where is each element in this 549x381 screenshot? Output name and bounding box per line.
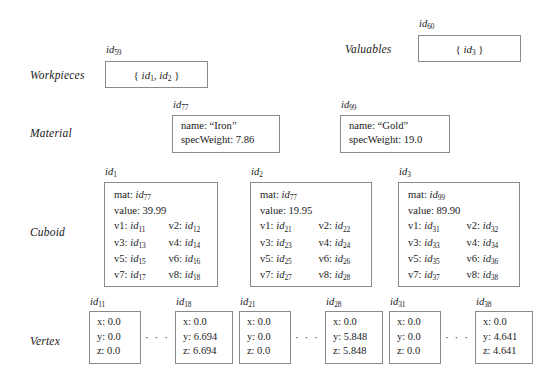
object-id-label-cuboid-2: id2: [251, 166, 263, 177]
cuboid-vertex-ref: v1: id31: [408, 218, 453, 234]
id-prefix: id: [335, 220, 343, 231]
object-box-workpieces-set[interactable]: { id1, id2 }: [105, 61, 208, 88]
attr-value-z: 0.0: [407, 345, 420, 356]
attr-value-z: 5.848: [343, 345, 366, 356]
object-box-vertex-28[interactable]: x: 0.0 y: 5.848 z: 5.848: [325, 311, 383, 364]
vertex-x-line: x: 0.0: [247, 315, 285, 330]
attr-key-v: v5:: [114, 253, 128, 264]
vertex-x-line: x: 0.0: [183, 315, 227, 330]
id-subscript: 1: [150, 74, 154, 83]
attr-value-specweight: 7.86: [236, 134, 255, 145]
vertex-z-line: z: 6.694: [183, 344, 227, 359]
object-id-label-workpieces-set: id59: [106, 44, 121, 55]
attr-value-v-ref: id26: [335, 253, 350, 264]
attr-value-value: 19.95: [289, 205, 313, 216]
id-subscript: 99: [349, 103, 356, 112]
attr-key-z: z:: [247, 345, 255, 356]
id-prefix: id: [240, 296, 248, 307]
cuboid-vertex-ref: v2: id32: [467, 218, 512, 234]
cuboid-mat-line: mat: id77: [260, 187, 363, 203]
attr-value-v-ref: id35: [424, 253, 439, 264]
row-label-valuables: Valuables: [345, 43, 392, 55]
vertex-ellipsis-1: · · ·: [145, 331, 170, 343]
cuboid-vertex-ref: v8: id38: [467, 267, 512, 283]
attr-value-v-ref: id11: [130, 220, 145, 231]
row-label-workpieces: Workpieces: [30, 69, 85, 81]
set-member-ref: id2: [159, 69, 171, 81]
vertex-ellipsis-2: · · ·: [295, 331, 320, 343]
set-literal: { id1, id2 }: [134, 69, 180, 81]
id-subscript: 35: [432, 257, 439, 266]
object-box-cuboid-2[interactable]: mat: id77 value: 19.95 v1: id21 v2: id22…: [250, 182, 372, 287]
id-prefix: id: [399, 166, 407, 177]
object-box-cuboid-1[interactable]: mat: id77 value: 39.99 v1: id11 v2: id12…: [104, 182, 218, 287]
id-subscript: 28: [334, 300, 341, 309]
attr-value-value: 89.90: [437, 205, 461, 216]
set-open-brace: {: [455, 43, 460, 55]
set-close-brace: }: [174, 69, 179, 81]
object-box-cuboid-3[interactable]: mat: id99 value: 89.90 v1: id31 v2: id32…: [398, 182, 520, 287]
attr-key-y: y:: [397, 331, 405, 342]
cuboid-vertex-grid: v1: id11 v2: id12 v3: id13 v4: id14 v5: …: [114, 218, 209, 283]
attr-key-mat: mat:: [114, 189, 133, 200]
id-prefix: id: [90, 296, 98, 307]
id-prefix: id: [185, 237, 193, 248]
object-id-label-cuboid-1: id1: [105, 166, 117, 177]
attr-key-z: z:: [183, 345, 191, 356]
id-subscript: 36: [491, 257, 498, 266]
id-subscript: 33: [432, 241, 439, 250]
object-box-vertex-21[interactable]: x: 0.0 y: 0.0 z: 0.0: [239, 311, 291, 364]
attr-key-v: v6:: [319, 253, 333, 264]
attr-key-x: x:: [483, 316, 491, 327]
attr-key-v: v3:: [408, 237, 422, 248]
id-prefix: id: [335, 237, 343, 248]
attr-value-v-ref: id12: [185, 220, 200, 231]
attr-key-v: v4:: [319, 237, 333, 248]
attr-key-x: x:: [333, 316, 341, 327]
attr-value-z: 0.0: [107, 345, 120, 356]
id-subscript: 2: [259, 170, 263, 179]
object-box-vertex-31[interactable]: x: 0.0 y: 0.0 z: 0.0: [389, 311, 441, 364]
vertex-z-line: z: 0.0: [247, 344, 285, 359]
object-box-valuables-set[interactable]: { id3 }: [418, 35, 521, 62]
attr-key-x: x:: [97, 316, 105, 327]
id-subscript: 31: [432, 225, 439, 234]
vertex-y-line: y: 0.0: [397, 330, 435, 345]
id-prefix: id: [185, 220, 193, 231]
attr-value-x: 0.0: [494, 316, 507, 327]
id-prefix: id: [341, 99, 349, 110]
id-subscript: 59: [114, 48, 121, 57]
attr-value-y: 0.0: [108, 331, 121, 342]
vertex-x-line: x: 0.0: [397, 315, 435, 330]
attr-key-name: name:: [349, 120, 375, 131]
object-box-material-gold[interactable]: name: “Gold” specWeight: 19.0: [340, 115, 450, 153]
id-subscript: 1: [113, 170, 117, 179]
attr-value-x: 0.0: [194, 316, 207, 327]
attr-key-specweight: specWeight:: [181, 134, 233, 145]
id-subscript: 38: [491, 273, 498, 282]
object-box-vertex-11[interactable]: x: 0.0 y: 0.0 z: 0.0: [89, 311, 141, 364]
attr-value-v-ref: id33: [424, 237, 439, 248]
attr-value-v-ref: id13: [130, 237, 145, 248]
object-box-material-iron[interactable]: name: “Iron” specWeight: 7.86: [172, 115, 280, 153]
id-subscript: 99: [438, 193, 445, 202]
set-open-brace: {: [134, 69, 139, 81]
attr-value-v-ref: id16: [185, 253, 200, 264]
attr-key-v: v2:: [467, 220, 481, 231]
cuboid-vertex-ref: v1: id11: [114, 218, 155, 234]
attr-key-y: y:: [247, 331, 255, 342]
material-specweight-line: specWeight: 7.86: [181, 133, 272, 147]
attr-key-v: v1:: [114, 220, 128, 231]
attr-value-v-ref: id38: [483, 269, 498, 280]
attr-key-v: v7:: [114, 269, 128, 280]
id-subscript: 60: [427, 22, 434, 31]
object-box-vertex-18[interactable]: x: 0.0 y: 6.694 z: 6.694: [175, 311, 233, 364]
attr-value-y: 0.0: [408, 331, 421, 342]
cuboid-value-line: value: 19.95: [260, 203, 363, 218]
object-box-vertex-38[interactable]: x: 0.0 y: 4.641 z: 4.641: [475, 311, 533, 364]
id-subscript: 21: [248, 300, 255, 309]
attr-value-mat-ref: id77: [282, 189, 297, 200]
attr-key-v: v8:: [169, 269, 183, 280]
cuboid-vertex-grid: v1: id21 v2: id22 v3: id23 v4: id24 v5: …: [260, 218, 363, 283]
attr-value-mat-ref: id99: [430, 189, 445, 200]
